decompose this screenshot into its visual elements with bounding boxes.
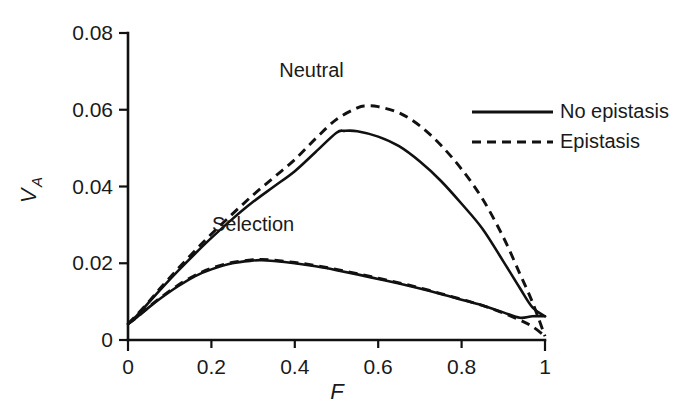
legend-label: No epistasis xyxy=(560,100,669,122)
y-tick-label: 0 xyxy=(101,328,113,351)
y-tick-label: 0.04 xyxy=(72,175,113,198)
figure-container: 00.020.040.060.08 00.20.40.60.81 V A F N… xyxy=(0,0,693,412)
x-tick-label: 0.6 xyxy=(364,355,393,378)
legend: No epistasisEpistasis xyxy=(472,100,669,152)
y-axis-title: V A xyxy=(16,177,45,203)
y-tick-label: 0.02 xyxy=(72,251,113,274)
x-tick-label: 0 xyxy=(122,355,134,378)
y-tick-label: 0.08 xyxy=(72,21,113,44)
series-line xyxy=(128,106,545,336)
y-tick-label: 0.06 xyxy=(72,98,113,121)
chart-plot: 00.020.040.060.08 00.20.40.60.81 V A F N… xyxy=(0,0,693,412)
x-tick-label: 0.4 xyxy=(280,355,310,378)
series-line xyxy=(128,131,545,324)
x-tick-label: 0.8 xyxy=(447,355,476,378)
x-axis-title-text: F xyxy=(330,379,345,404)
legend-label: Epistasis xyxy=(560,130,640,152)
curve-annotation: Neutral xyxy=(279,59,343,81)
y-axis-title-subscript: A xyxy=(28,177,45,188)
x-axis-tick-labels: 00.20.40.60.81 xyxy=(122,355,551,378)
y-axis-title-text: V xyxy=(16,186,41,203)
curve-annotations: NeutralSelection xyxy=(212,59,344,235)
y-axis-tick-labels: 00.020.040.060.08 xyxy=(72,21,113,351)
x-axis-tick-marks xyxy=(128,340,545,351)
y-axis-tick-marks xyxy=(119,33,128,340)
x-tick-label: 0.2 xyxy=(197,355,226,378)
x-tick-label: 1 xyxy=(539,355,551,378)
data-series-group xyxy=(128,106,545,336)
curve-annotation: Selection xyxy=(212,213,294,235)
